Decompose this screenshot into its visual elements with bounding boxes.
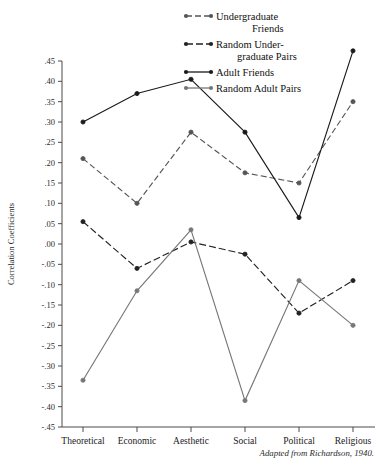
y-tick-label: -.35	[42, 381, 55, 391]
data-point	[351, 279, 355, 283]
data-point	[243, 252, 247, 256]
legend-label: Undergraduate	[216, 11, 279, 22]
data-point	[297, 311, 301, 315]
data-point	[81, 378, 85, 382]
legend-item-2: Random Under-graduate Pairs	[184, 39, 297, 62]
data-point	[189, 228, 193, 232]
chart-canvas: .45.40.35.30.25.20.15.10.05.00-.05-.10-.…	[0, 0, 382, 471]
legend-swatch-marker	[209, 42, 213, 46]
legend-label: Random Under-	[216, 39, 284, 50]
y-tick-label: .40	[44, 76, 55, 86]
y-tick-label: .30	[44, 117, 55, 127]
legend-item-4: Random Adult Pairs	[184, 83, 301, 94]
series-2	[81, 220, 355, 316]
y-tick-label: -.15	[42, 300, 55, 310]
legend-swatch-marker	[184, 42, 188, 46]
data-point	[81, 157, 85, 161]
y-tick-label: .10	[44, 198, 55, 208]
y-tick-label: .05	[44, 219, 55, 229]
y-tick-label: .15	[44, 178, 55, 188]
legend-label: Friends	[252, 23, 284, 34]
data-point	[81, 120, 85, 124]
data-point	[351, 49, 355, 53]
y-tick-label: -.20	[42, 320, 55, 330]
data-point	[351, 100, 355, 104]
x-axis-ticks: TheoreticalEconomicAestheticSocialPoliti…	[61, 427, 371, 446]
data-point	[297, 181, 301, 185]
y-tick-label: .35	[44, 97, 55, 107]
y-tick-label: -.05	[42, 259, 55, 269]
data-point	[351, 323, 355, 327]
x-tick-label: Aesthetic	[173, 436, 209, 446]
correlation-coefficients-chart: .45.40.35.30.25.20.15.10.05.00-.05-.10-.…	[0, 0, 382, 471]
series-line	[83, 102, 353, 204]
data-point	[243, 130, 247, 134]
legend-swatch-marker	[209, 14, 213, 18]
series-group	[81, 49, 355, 403]
legend-label: graduate Pairs	[237, 51, 297, 62]
y-tick-label: .00	[44, 239, 55, 249]
y-tick-label: .25	[44, 137, 55, 147]
x-tick-label: Political	[283, 436, 315, 446]
x-tick-label: Social	[233, 436, 257, 446]
chart-caption: Adapted from Richardson, 1940.	[259, 448, 374, 458]
legend-swatch-marker	[184, 86, 188, 90]
y-tick-label: -.40	[42, 402, 55, 412]
y-tick-label: -.10	[42, 280, 55, 290]
legend-label: Adult Friends	[216, 67, 274, 78]
data-point	[297, 279, 301, 283]
legend-label: Random Adult Pairs	[216, 83, 301, 94]
data-point	[189, 240, 193, 244]
data-point	[297, 215, 301, 219]
y-tick-label: -.25	[42, 341, 55, 351]
legend-item-3: Adult Friends	[184, 67, 274, 78]
data-point	[135, 91, 139, 95]
legend-item-1: UndergraduateFriends	[184, 11, 284, 34]
legend-swatch-marker	[184, 70, 188, 74]
x-tick-label: Religious	[335, 436, 372, 446]
data-point	[243, 171, 247, 175]
y-tick-label: -.45	[42, 422, 55, 432]
y-tick-label: .45	[44, 56, 55, 66]
data-point	[135, 201, 139, 205]
x-tick-label: Economic	[118, 436, 157, 446]
series-4	[81, 228, 355, 403]
data-point	[189, 130, 193, 134]
data-point	[81, 220, 85, 224]
x-tick-label: Theoretical	[61, 436, 105, 446]
series-1	[81, 100, 355, 206]
legend-swatch-marker	[184, 14, 188, 18]
legend: UndergraduateFriendsRandom Under-graduat…	[184, 11, 301, 94]
series-line	[83, 230, 353, 401]
data-point	[135, 266, 139, 270]
legend-swatch-marker	[209, 70, 213, 74]
y-axis-ticks: .45.40.35.30.25.20.15.10.05.00-.05-.10-.…	[42, 56, 62, 432]
y-tick-label: -.30	[42, 361, 55, 371]
series-line	[83, 222, 353, 314]
y-tick-label: .20	[44, 158, 55, 168]
y-axis-title: Correlation Coefficients	[6, 203, 16, 285]
data-point	[243, 398, 247, 402]
legend-swatch-marker	[209, 86, 213, 90]
data-point	[135, 289, 139, 293]
data-point	[189, 77, 193, 81]
